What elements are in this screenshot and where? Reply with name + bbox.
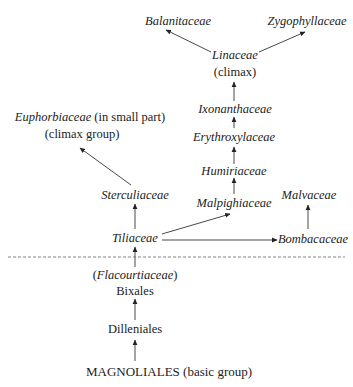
node-erythroxylaceae: Erythroxylaceae <box>193 130 275 145</box>
node-magnoliales: MAGNOLIALES (basic group) <box>86 364 252 379</box>
node-euphorbiaceae: Euphorbiaceae (in small part) <box>15 110 165 125</box>
euphorbiaceae-qualifier: (in small part) <box>94 110 165 124</box>
node-humiriaceae: Humiriaceae <box>201 164 266 179</box>
edge-linaceae-zygophyllaceae <box>259 32 305 52</box>
node-linaceae-note: (climax) <box>214 65 256 80</box>
node-bombacaceae: Bombacaceae <box>278 232 348 247</box>
node-sterculiaceae: Sterculiaceae <box>101 188 169 203</box>
node-malvaceae: Malvaceae <box>282 188 337 203</box>
edge-linaceae-balanitaceae <box>166 30 211 52</box>
edge-sterculiaceae-euphorbiaceae <box>80 148 131 185</box>
node-dilleniales: Dilleniales <box>108 322 162 337</box>
node-linaceae: Linaceae <box>212 48 258 63</box>
edge-tiliaceae-malpighiaceae <box>162 214 230 234</box>
node-euphorbiaceae-note: (climax group) <box>45 127 120 142</box>
node-zygophyllaceae: Zygophyllaceae <box>267 14 346 29</box>
node-bixales: Bixales <box>116 284 154 299</box>
node-balanitaceae: Balanitaceae <box>145 14 211 29</box>
flacourtiaceae-close: ) <box>173 268 177 282</box>
node-tiliaceae: Tiliaceae <box>112 231 158 246</box>
euphorbiaceae-label: Euphorbiaceae <box>15 110 91 124</box>
node-ixonanthaceae: Ixonanthaceae <box>198 102 272 117</box>
flacourtiaceae-label: Flacourtiaceae <box>97 268 173 282</box>
node-flacourtiaceae: (Flacourtiaceae) <box>93 268 178 283</box>
node-malpighiaceae: Malpighiaceae <box>197 196 272 211</box>
